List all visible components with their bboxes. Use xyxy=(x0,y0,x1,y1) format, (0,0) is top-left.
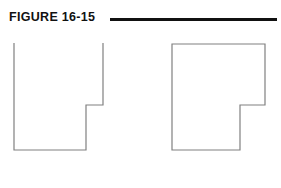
figure-container: FIGURE 16-15 OPEN CLOSE xyxy=(0,0,281,188)
page-title: FIGURE 16-15 xyxy=(9,10,95,24)
figure-caption-bar: FIGURE 16-15 xyxy=(0,0,281,34)
close-shape-outline xyxy=(172,44,265,150)
shapes-svg xyxy=(0,34,281,188)
open-shape-outline xyxy=(14,43,103,150)
diagram-area: OPEN CLOSE xyxy=(0,34,281,188)
caption-divider-rule xyxy=(110,18,277,21)
